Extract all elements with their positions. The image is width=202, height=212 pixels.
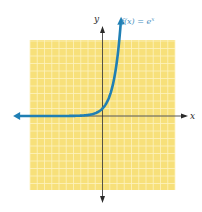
function-label-base: f(x) = e (120, 17, 152, 26)
y-axis-arrow-down-icon (100, 196, 105, 203)
function-label-exponent: x (151, 16, 155, 22)
curve-arrow-left-icon (13, 112, 20, 120)
y-axis-label: y (93, 14, 100, 24)
exponential-graph: y x f(x) = ex (0, 0, 202, 212)
x-axis-arrow-icon (181, 114, 188, 119)
y-axis-arrow-up-icon (100, 26, 105, 33)
function-label: f(x) = ex (120, 16, 155, 26)
x-axis-label: x (190, 111, 195, 121)
